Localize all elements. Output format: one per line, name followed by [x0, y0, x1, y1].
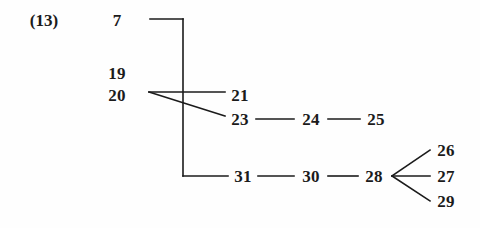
node-label-19: 19: [108, 65, 125, 82]
node-label-28: 28: [365, 168, 382, 185]
node-label-29: 29: [437, 193, 454, 210]
edge-e-28-29: [392, 176, 430, 201]
node-label-23: 23: [231, 111, 248, 128]
node-label-25: 25: [367, 111, 384, 128]
edge-e-fan-to-23: [149, 92, 225, 116]
node-label-20: 20: [108, 87, 125, 104]
node-label-27: 27: [437, 168, 454, 185]
node-label-26: 26: [437, 142, 454, 159]
node-label-7: 7: [113, 12, 122, 29]
node-label-31: 31: [234, 168, 251, 185]
figure-tag: (13): [30, 12, 58, 29]
node-label-24: 24: [302, 111, 319, 128]
node-label-30: 30: [302, 168, 319, 185]
edge-e-28-26: [392, 150, 430, 176]
node-label-21: 21: [231, 87, 248, 104]
stemma-diagram: 7192021232425313028262729 (13): [0, 0, 480, 228]
